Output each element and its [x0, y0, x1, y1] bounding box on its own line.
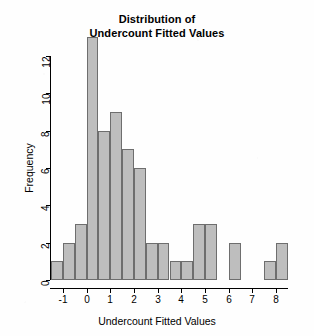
- histogram-bar: [98, 131, 110, 280]
- histogram-bars: [0, 0, 314, 336]
- histogram-bar: [193, 224, 205, 280]
- histogram-bar: [276, 243, 288, 280]
- histogram-bar: [134, 168, 146, 280]
- histogram-bar: [122, 149, 134, 280]
- histogram-plot: Distribution of Undercount Fitted Values…: [0, 0, 314, 336]
- histogram-bar: [170, 261, 182, 280]
- histogram-bar: [110, 112, 122, 280]
- histogram-bar: [87, 37, 99, 280]
- histogram-bar: [51, 261, 63, 280]
- histogram-bar: [205, 224, 217, 280]
- histogram-bar: [146, 243, 158, 280]
- histogram-bar: [181, 261, 193, 280]
- histogram-bar: [158, 243, 170, 280]
- histogram-bar: [75, 224, 87, 280]
- histogram-bar: [229, 243, 241, 280]
- histogram-bar: [63, 243, 75, 280]
- histogram-bar: [264, 261, 276, 280]
